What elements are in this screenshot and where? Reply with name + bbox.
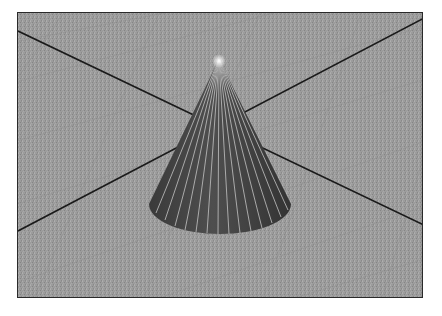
- cone-scene: [18, 13, 423, 298]
- rendered-scene-frame: [17, 12, 423, 298]
- apex-highlight: [212, 54, 226, 68]
- figure-caption-clipped: [18, 310, 418, 316]
